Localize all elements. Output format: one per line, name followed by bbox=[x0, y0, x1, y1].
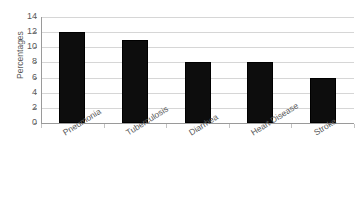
x-axis-tick-mark bbox=[41, 124, 42, 128]
bar-chart: Percentages 02468101214 PneumoniaTubercu… bbox=[0, 0, 362, 203]
x-axis-tick-mark bbox=[229, 124, 230, 128]
y-axis-tick-label: 8 bbox=[3, 57, 37, 66]
bar bbox=[59, 32, 85, 123]
x-axis-tick-mark bbox=[166, 124, 167, 128]
y-axis-tick-label: 2 bbox=[3, 103, 37, 112]
x-axis-tick-mark bbox=[291, 124, 292, 128]
y-axis-tick-label: 0 bbox=[3, 118, 37, 127]
y-axis-tick-labels: 02468101214 bbox=[0, 17, 37, 123]
y-axis-tick-label: 12 bbox=[3, 27, 37, 36]
x-axis-tick-mark bbox=[104, 124, 105, 128]
x-axis-tick-mark bbox=[354, 124, 355, 128]
bar bbox=[122, 40, 148, 123]
y-axis-line bbox=[41, 17, 42, 124]
y-axis-tick-label: 6 bbox=[3, 73, 37, 82]
bar bbox=[247, 62, 273, 123]
y-axis-tick-label: 14 bbox=[3, 12, 37, 21]
y-axis-tick-label: 4 bbox=[3, 88, 37, 97]
gridline bbox=[41, 32, 354, 33]
gridline bbox=[41, 47, 354, 48]
plot-area bbox=[41, 17, 354, 123]
bar bbox=[185, 62, 211, 123]
y-axis-tick-label: 10 bbox=[3, 42, 37, 51]
gridline bbox=[41, 17, 354, 18]
